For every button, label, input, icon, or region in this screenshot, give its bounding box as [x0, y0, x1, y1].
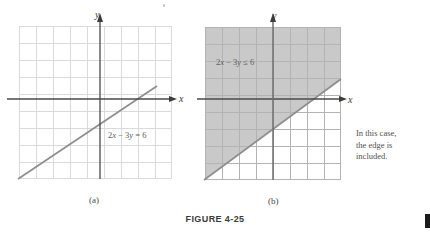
- panel-b-svg: [205, 27, 341, 180]
- figure-caption: FIGURE 4-25: [0, 214, 430, 224]
- panel-a-equation-label: 2x − 3y = 6: [108, 131, 146, 140]
- panel-b-x-axis-arrow: [339, 96, 347, 102]
- panel-b-y-axis-label: y: [272, 11, 276, 21]
- page-edge-mark: [425, 214, 430, 228]
- panel-a-background: [19, 26, 172, 179]
- panel-a-svg: [19, 26, 172, 179]
- panel-b-x-axis-label: x: [348, 95, 352, 105]
- side-note-line-3: included.: [356, 151, 428, 163]
- panel-b-graph: [205, 27, 341, 180]
- side-note-line-1: In this case,: [356, 128, 428, 140]
- side-note-line-2: the edge is: [356, 140, 428, 152]
- panel-b-sub-caption: (b): [268, 197, 279, 206]
- panel-a-equation-tail: = 6: [133, 130, 146, 140]
- panel-b-inequality-label: 2x − 3y ≤ 6: [216, 58, 254, 67]
- panel-b-equation-tail: ≤ 6: [241, 57, 254, 67]
- side-note: In this case, the edge is included.: [356, 128, 428, 163]
- figure-4-25: y x 2x − 3y = 6 (a): [0, 0, 430, 239]
- panel-a-sub-caption: (a): [89, 196, 99, 205]
- panel-a-graph: [19, 26, 172, 179]
- panel-a-x-axis-label: x: [179, 94, 183, 104]
- panel-a-y-axis-label: y: [95, 10, 99, 20]
- panel-a-equation-mid: − 3: [116, 130, 129, 140]
- page-speckle: [163, 4, 165, 7]
- panel-b-equation-mid: − 3: [224, 57, 237, 67]
- panel-a-x-axis-arrow: [169, 96, 177, 102]
